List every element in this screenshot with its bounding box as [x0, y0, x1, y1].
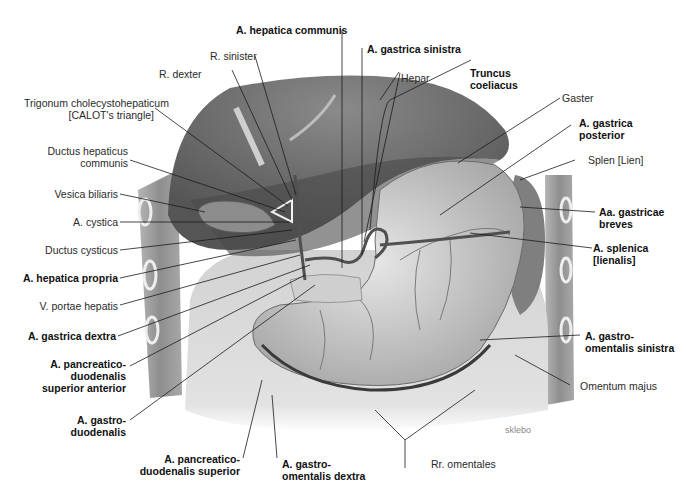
- label-line: posterior: [579, 129, 633, 141]
- watermark: sklebo: [505, 425, 531, 435]
- label-gaster: Gaster: [562, 92, 594, 104]
- label-line: A. gastro-: [282, 458, 365, 470]
- label-ductus-cysticus: Ductus cysticus: [20, 244, 118, 256]
- label-line: breves: [599, 218, 664, 230]
- label-line: A. pancreatico-: [130, 453, 240, 465]
- label-line: superior anterior: [20, 382, 126, 394]
- label-a-gastrica-dextra: A. gastrica dextra: [10, 330, 116, 342]
- label-ductus-hepaticus-communis: Ductus hepaticus communis: [30, 145, 128, 169]
- label-r-dexter: R. dexter: [159, 68, 202, 80]
- label-a-hepatica-communis: A. hepatica communis: [236, 24, 347, 36]
- label-v-portae-hepatis: V. portae hepatis: [20, 300, 118, 312]
- label-line: duodenalis: [20, 426, 126, 438]
- label-line: communis: [30, 157, 128, 169]
- label-rr-omentales: Rr. omentales: [431, 458, 496, 470]
- label-line: coeliacus: [470, 79, 518, 91]
- label-line: duodenalis superior: [130, 465, 240, 477]
- label-line: Ductus hepaticus: [30, 145, 128, 157]
- label-line: A. pancreatico-: [20, 358, 126, 370]
- label-a-gastrica-posterior: A. gastrica posterior: [579, 117, 633, 141]
- label-vesica-biliaris: Vesica biliaris: [20, 188, 118, 200]
- label-line: duodenalis: [20, 370, 126, 382]
- label-line: Truncus: [470, 67, 518, 79]
- label-a-gastroduodenalis: A. gastro- duodenalis: [20, 414, 126, 438]
- label-line: [lienalis]: [593, 254, 648, 266]
- label-a-hepatica-propria: A. hepatica propria: [10, 272, 118, 284]
- label-line: A. gastro-: [20, 414, 126, 426]
- label-a-cystica: A. cystica: [20, 216, 118, 228]
- pancreas: [290, 274, 362, 302]
- label-line: A. splenica: [593, 242, 648, 254]
- label-line: Aa. gastricae: [599, 206, 664, 218]
- label-trigonum: Trigonum cholecystohepaticum [CALOT's tr…: [24, 97, 154, 121]
- label-line: omentalis sinistra: [585, 342, 674, 354]
- label-splen: Splen [Lien]: [588, 154, 643, 166]
- label-line: A. gastro-: [585, 330, 674, 342]
- label-omentum-majus: Omentum majus: [580, 380, 657, 392]
- label-truncus-coeliacus: Truncus coeliacus: [470, 67, 518, 91]
- label-line: Trigonum cholecystohepaticum: [24, 97, 154, 109]
- label-a-gastroomentalis-dextra: A. gastro- omentalis dextra: [282, 458, 365, 482]
- label-line: [CALOT's triangle]: [24, 109, 154, 121]
- label-line: omentalis dextra: [282, 470, 365, 482]
- label-a-splenica: A. splenica [lienalis]: [593, 242, 648, 266]
- label-r-sinister: R. sinister: [210, 50, 257, 62]
- label-a-pancreaticoduodenalis-superior: A. pancreatico- duodenalis superior: [130, 453, 240, 477]
- label-hepar: Hepar: [401, 72, 430, 84]
- label-a-gastrica-sinistra: A. gastrica sinistra: [367, 43, 461, 55]
- label-a-pancreaticoduodenalis-superior-anterior: A. pancreatico- duodenalis superior ante…: [20, 358, 126, 394]
- label-line: A. gastrica: [579, 117, 633, 129]
- label-a-gastroomentalis-sinistra: A. gastro- omentalis sinistra: [585, 330, 674, 354]
- label-aa-gastricae-breves: Aa. gastricae breves: [599, 206, 664, 230]
